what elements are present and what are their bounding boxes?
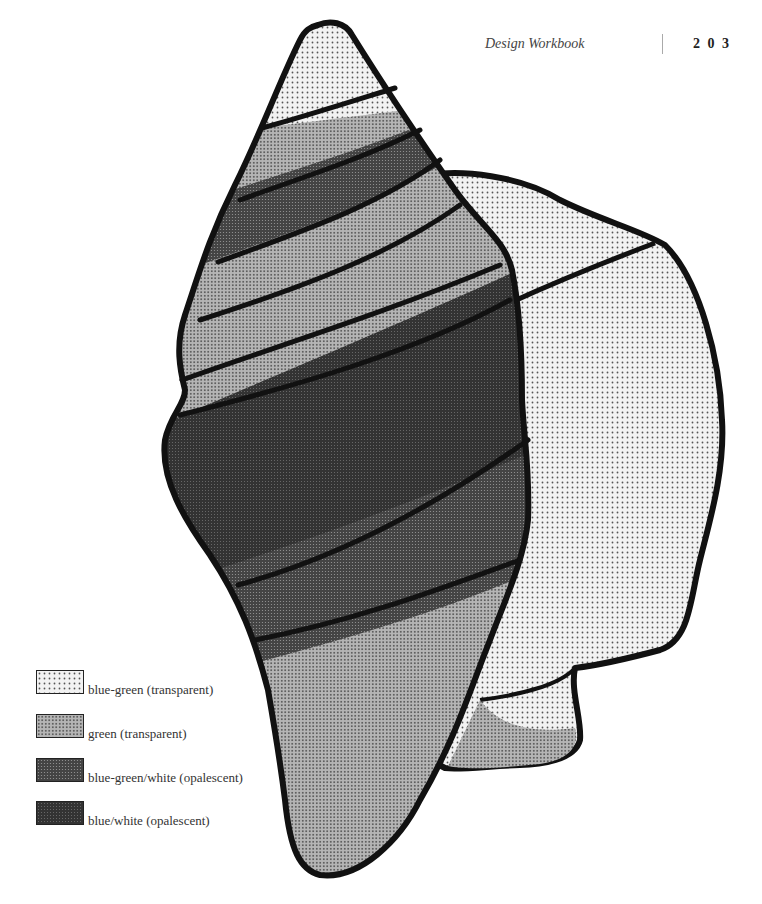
legend-item-blue-white-opalescent: blue/white (opalescent) xyxy=(36,801,276,827)
legend-label: green (transparent) xyxy=(88,726,187,742)
legend-item-blue-green-white-opalescent: blue-green/white (opalescent) xyxy=(36,758,276,784)
legend-item-green-transparent: green (transparent) xyxy=(36,714,276,740)
legend-item-blue-green-transparent: blue-green (transparent) xyxy=(36,670,276,696)
swatch-darkest-dots xyxy=(36,801,84,825)
swatch-dark-dots xyxy=(36,758,84,782)
legend-label: blue-green (transparent) xyxy=(88,682,213,698)
legend-label: blue/white (opalescent) xyxy=(88,813,210,829)
swatch-light-dots xyxy=(36,670,84,694)
legend-label: blue-green/white (opalescent) xyxy=(88,770,243,786)
swatch-medium-dots xyxy=(36,714,84,738)
